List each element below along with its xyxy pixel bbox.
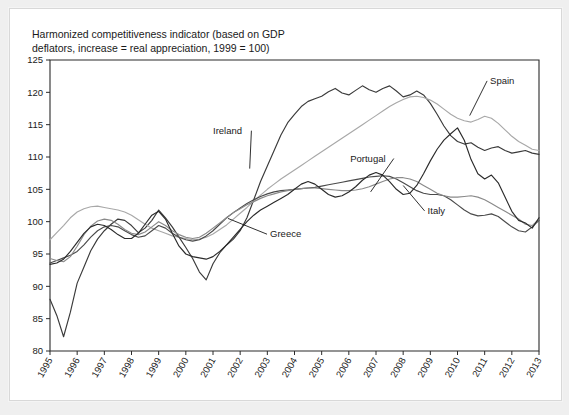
annotation-layer: IrelandSpainPortugalItalyGreece: [213, 75, 514, 239]
leader-line-spain: [470, 81, 487, 116]
series-label-italy: Italy: [428, 205, 446, 216]
y-tick-label: 125: [27, 54, 43, 65]
y-tick-label: 80: [32, 345, 43, 356]
y-tick-label: 115: [28, 119, 43, 130]
x-tick-label: 2007: [361, 356, 381, 380]
axes-layer: 8085909510010511011512012519951996199719…: [27, 54, 544, 379]
leader-line-ireland: [250, 131, 252, 169]
x-tick-label: 2008: [388, 356, 408, 380]
axis-box: [50, 60, 539, 351]
y-tick-label: 85: [32, 313, 43, 324]
x-tick-label: 2010: [442, 356, 462, 380]
plot-area: 8085909510010511011512012519951996199719…: [10, 9, 561, 400]
y-tick-label: 90: [32, 281, 43, 292]
chart-card: Harmonized competitiveness indicator (ba…: [9, 8, 562, 401]
x-tick-label: 1999: [143, 356, 163, 380]
x-tick-label: 2004: [279, 356, 299, 380]
x-tick-label: 2005: [306, 356, 326, 380]
x-tick-label: 2011: [470, 356, 490, 379]
y-tick-label: 120: [27, 87, 43, 98]
x-tick-label: 1996: [62, 356, 82, 380]
series-layer: [50, 86, 539, 337]
y-tick-label: 105: [27, 184, 43, 195]
x-tick-label: 1995: [35, 356, 55, 380]
x-tick-label: 2000: [170, 356, 190, 380]
x-tick-label: 2012: [496, 356, 516, 380]
x-tick-label: 2003: [252, 356, 272, 380]
x-tick-label: 2002: [225, 356, 245, 380]
x-tick-label: 2013: [524, 356, 544, 380]
line-chart-svg: 8085909510010511011512012519951996199719…: [10, 9, 561, 400]
x-tick-label: 1998: [116, 356, 136, 380]
y-tick-label: 110: [28, 151, 43, 162]
series-label-portugal: Portugal: [350, 153, 385, 164]
series-line-spain: [50, 96, 539, 240]
x-tick-label: 1997: [89, 356, 109, 380]
series-label-greece: Greece: [270, 228, 301, 239]
y-tick-label: 100: [27, 216, 43, 227]
y-tick-label: 95: [32, 248, 43, 259]
x-tick-label: 2006: [333, 356, 353, 380]
x-tick-label: 2001: [198, 356, 218, 380]
figure-frame: Harmonized competitiveness indicator (ba…: [0, 0, 569, 415]
series-label-spain: Spain: [490, 75, 514, 86]
x-tick-label: 2009: [415, 356, 435, 380]
series-label-ireland: Ireland: [213, 125, 242, 136]
